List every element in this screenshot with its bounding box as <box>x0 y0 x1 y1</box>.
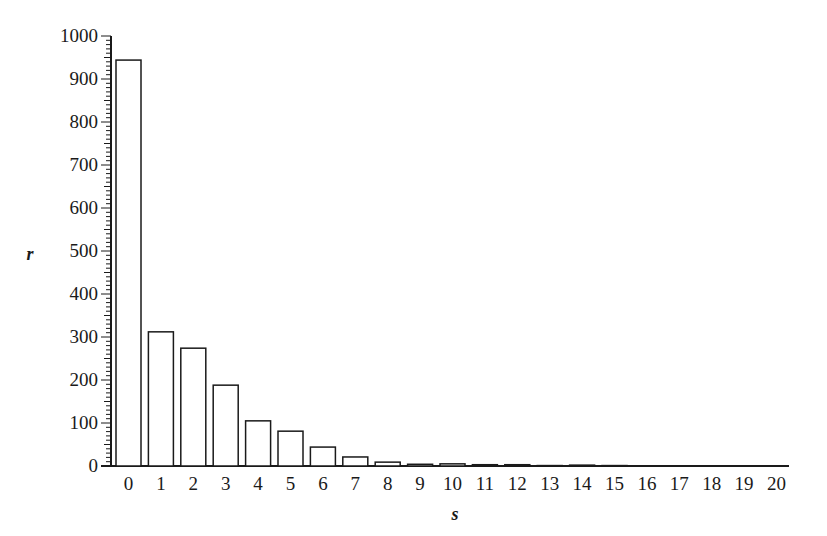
x-tick-label: 12 <box>508 473 527 494</box>
bar-10 <box>440 464 465 466</box>
y-tick-label: 700 <box>70 154 99 175</box>
y-tick-label: 100 <box>70 412 99 433</box>
y-tick-label: 600 <box>70 197 99 218</box>
x-tick-label: 15 <box>605 473 624 494</box>
x-tick-label: 0 <box>124 473 134 494</box>
y-axis: 01002003004005006007008009001000 <box>60 25 111 476</box>
y-tick-label: 500 <box>70 240 99 261</box>
bar-chart: 01002003004005006007008009001000 0123456… <box>0 0 827 536</box>
x-tick-label: 6 <box>318 473 328 494</box>
y-axis-title: r <box>26 244 34 264</box>
y-tick-label: 300 <box>70 326 99 347</box>
x-tick-label: 3 <box>221 473 231 494</box>
bar-2 <box>181 348 206 466</box>
bar-7 <box>343 457 368 466</box>
y-tick-label: 800 <box>70 111 99 132</box>
x-axis: 01234567891011121314151617181920 <box>101 466 789 494</box>
x-tick-label: 10 <box>443 473 462 494</box>
x-tick-label: 20 <box>767 473 786 494</box>
x-axis-title: s <box>450 504 458 524</box>
x-tick-label: 5 <box>286 473 296 494</box>
y-tick-label: 0 <box>89 455 99 476</box>
y-tick-label: 1000 <box>60 25 98 46</box>
bar-8 <box>375 462 400 466</box>
bar-3 <box>213 385 238 466</box>
x-tick-label: 13 <box>540 473 559 494</box>
bars <box>116 60 627 466</box>
x-tick-label: 1 <box>156 473 166 494</box>
x-tick-label: 19 <box>735 473 754 494</box>
x-tick-label: 14 <box>573 473 593 494</box>
bar-6 <box>310 447 335 466</box>
x-tick-label: 4 <box>253 473 263 494</box>
bar-4 <box>246 421 271 466</box>
bar-14 <box>570 465 595 466</box>
x-tick-label: 11 <box>476 473 494 494</box>
y-tick-label: 900 <box>70 68 99 89</box>
x-tick-label: 2 <box>189 473 199 494</box>
bar-0 <box>116 60 141 466</box>
x-tick-label: 17 <box>670 473 689 494</box>
bar-5 <box>278 431 303 466</box>
x-tick-label: 16 <box>637 473 656 494</box>
x-tick-label: 7 <box>351 473 361 494</box>
x-tick-label: 18 <box>702 473 721 494</box>
y-tick-label: 200 <box>70 369 99 390</box>
y-tick-label: 400 <box>70 283 99 304</box>
x-tick-label: 8 <box>383 473 393 494</box>
bar-9 <box>408 464 433 466</box>
bar-1 <box>148 332 173 466</box>
bar-12 <box>505 465 530 466</box>
x-tick-label: 9 <box>415 473 425 494</box>
bar-11 <box>472 465 497 466</box>
